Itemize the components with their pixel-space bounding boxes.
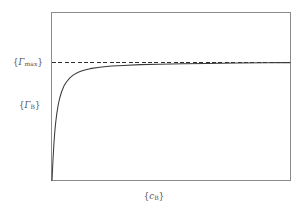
x-axis-label: {cB}: [0, 192, 308, 201]
brace-close-gamma-max: }: [37, 57, 43, 67]
y-axis-label: {ΓB}: [19, 101, 41, 110]
figure-container: {Γmax} {ΓB} {cB}: [0, 0, 308, 216]
gamma-max-subscript: max: [25, 60, 38, 67]
y-axis-asymptote-label: {Γmax}: [13, 58, 43, 67]
langmuir-isotherm-curve: [52, 63, 290, 181]
brace-close-gamma-b: }: [35, 100, 41, 110]
brace-close-c-b: }: [159, 191, 165, 201]
plot-canvas: [0, 0, 308, 216]
